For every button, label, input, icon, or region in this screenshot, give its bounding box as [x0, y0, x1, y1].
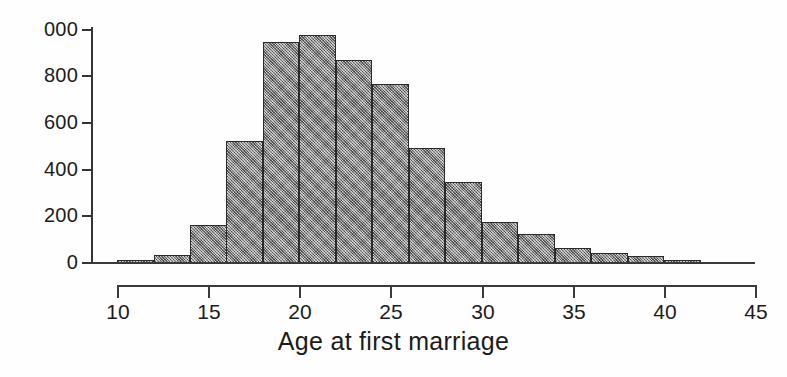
x-tick-mark-25	[390, 285, 392, 298]
x-axis-baseline	[91, 262, 755, 264]
y-axis-line	[91, 27, 93, 264]
y-tick-label-1000: 000	[24, 19, 78, 39]
x-tick-label-30: 30	[460, 300, 506, 324]
x-tick-mark-35	[573, 285, 575, 298]
x-tick-label-40: 40	[642, 300, 688, 324]
histogram-bar-30-32	[482, 222, 519, 264]
y-tick-label-400: 400	[24, 159, 78, 179]
x-tick-mark-40	[664, 285, 666, 298]
histogram-bar-16-18	[226, 141, 263, 264]
y-tick-label-200: 200	[24, 205, 78, 225]
y-tick-mark-1000	[82, 29, 92, 31]
x-tick-label-25: 25	[368, 300, 414, 324]
x-tick-label-35: 35	[551, 300, 597, 324]
y-tick-mark-600	[82, 122, 92, 124]
histogram-bar-20-22	[299, 35, 336, 265]
x-tick-label-15: 15	[186, 300, 232, 324]
y-tick-label-400-wrap: 400	[16, 159, 78, 179]
x-tick-mark-45	[755, 285, 757, 298]
x-tick-label-20: 20	[277, 300, 323, 324]
histogram-figure: 0 200 400 600 800 000	[0, 0, 787, 377]
y-tick-label-200-wrap: 200	[16, 205, 78, 225]
y-tick-label-800-wrap: 800	[16, 65, 78, 85]
x-tick-mark-15	[208, 285, 210, 298]
y-tick-mark-800	[82, 75, 92, 77]
x-tick-label-10: 10	[95, 300, 141, 324]
y-tick-label-1000-wrap: 000	[16, 19, 78, 39]
y-tick-label-600: 600	[24, 112, 78, 132]
histogram-bar-32-34	[518, 234, 555, 265]
y-tick-label-800: 800	[24, 65, 78, 85]
histogram-bar-26-28	[409, 148, 446, 264]
y-tick-label-0: 0	[24, 252, 78, 272]
histogram-bar-18-20	[263, 42, 300, 264]
x-tick-mark-30	[482, 285, 484, 298]
histogram-bar-28-30	[445, 182, 482, 265]
x-tick-mark-10	[117, 285, 119, 298]
histogram-bar-14-16	[190, 225, 227, 264]
y-tick-mark-200	[82, 215, 92, 217]
histogram-bar-24-26	[372, 84, 409, 264]
x-tick-mark-20	[299, 285, 301, 298]
x-axis-title: Age at first marriage	[0, 326, 787, 356]
y-tick-mark-400	[82, 169, 92, 171]
histogram-bar-22-24	[336, 60, 373, 265]
y-tick-label-600-wrap: 600	[16, 112, 78, 132]
y-tick-label-0-wrap: 0	[16, 252, 78, 272]
x-axis-line	[117, 285, 755, 287]
x-tick-label-45: 45	[733, 300, 779, 324]
plot-area: 0 200 400 600 800 000	[0, 0, 787, 300]
